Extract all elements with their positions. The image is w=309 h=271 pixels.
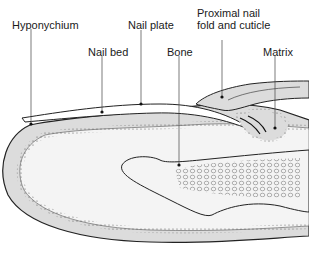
label-matrix: Matrix (263, 46, 293, 58)
label-nail-bed: Nail bed (88, 46, 128, 58)
diagram-illustration (0, 0, 309, 271)
label-hyponychium: Hyponychium (12, 19, 79, 31)
label-bone: Bone (167, 46, 193, 58)
nail-anatomy-diagram: Hyponychium Nail plate Nail bed Proximal… (0, 0, 309, 271)
label-proximal-nail-fold: Proximal nail fold and cuticle (197, 7, 270, 31)
label-nail-plate: Nail plate (128, 19, 174, 31)
